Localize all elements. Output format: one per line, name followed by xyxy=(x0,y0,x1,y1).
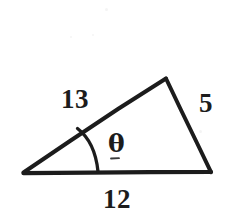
angle-label-theta: θ xyxy=(108,131,125,156)
side-label-hypotenuse: 13 xyxy=(61,86,89,113)
side-label-right-side: 5 xyxy=(199,90,213,117)
side-label-base: 12 xyxy=(103,186,131,213)
triangle-edge-base xyxy=(24,172,212,173)
triangle-diagram-figure: 13 5 12 θ xyxy=(0,0,235,224)
